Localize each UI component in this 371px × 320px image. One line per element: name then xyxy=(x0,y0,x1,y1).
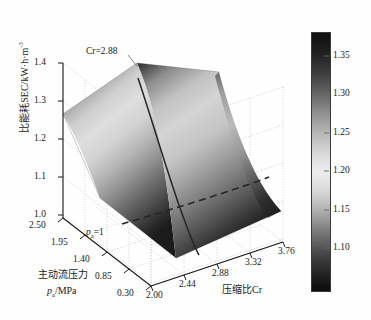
x-tick-label: 2.88 xyxy=(212,269,229,279)
y-tick-label: 0.85 xyxy=(95,272,112,282)
x-tick-label: 2.44 xyxy=(179,280,196,290)
x-axis-name: 压缩比Cr xyxy=(222,285,262,295)
annotation-pa-rest: =1 xyxy=(94,227,104,237)
x-tick-label: 3.76 xyxy=(278,247,295,257)
z-tick-label: 1.1 xyxy=(34,172,46,182)
y-tick-label: 0.30 xyxy=(117,289,134,299)
annotation-pa-label: pa=1 xyxy=(86,228,104,239)
x-tick-label: 3.32 xyxy=(245,258,262,268)
colorbar-tick-label: 1.15 xyxy=(333,205,350,215)
y-axis-unit: pa/MPa xyxy=(47,286,77,299)
colorbar-tick-label: 1.10 xyxy=(333,243,350,253)
z-tick-label: 1.3 xyxy=(34,96,46,106)
y-axis-name: 主动流压力 xyxy=(38,270,88,280)
colorbar xyxy=(311,32,331,292)
y-tick-label: 2.50 xyxy=(29,221,46,231)
colorbar-tick-label: 1.20 xyxy=(333,166,350,176)
colorbar-tick-label: 1.35 xyxy=(333,51,350,61)
z-tick-label: 1.4 xyxy=(34,58,46,68)
x-tick-label: 2.00 xyxy=(146,291,163,301)
y-tick-label: 1.95 xyxy=(51,238,68,248)
anno-leader-cr xyxy=(128,55,137,66)
z-axis-ticks xyxy=(58,63,63,215)
annotation-cr-label: Cr=2.88 xyxy=(86,47,117,57)
z-tick-label: 1.0 xyxy=(34,210,46,220)
z-tick-label: 1.2 xyxy=(34,134,46,144)
figure-3d-surface-plot: 比能耗SEC/kW·h·m-3 xyxy=(0,0,371,320)
y-tick-label: 1.40 xyxy=(73,255,90,265)
colorbar-tick-label: 1.25 xyxy=(333,128,350,138)
colorbar-tick-label: 1.30 xyxy=(333,89,350,99)
y-axis-unit-rest: /MPa xyxy=(55,285,77,296)
